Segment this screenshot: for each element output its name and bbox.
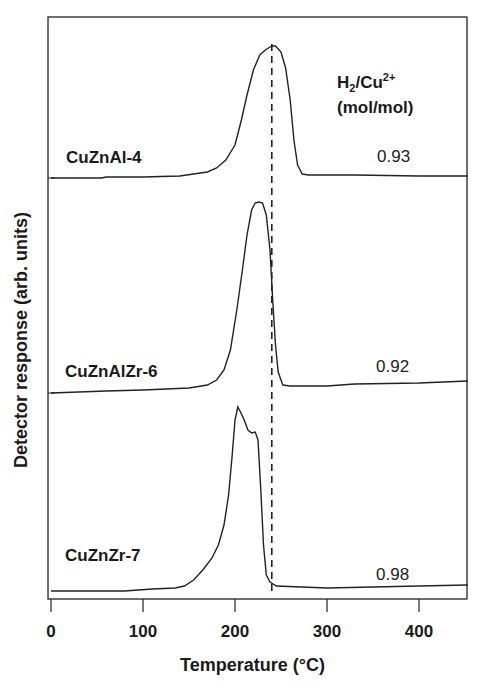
ratio-header-units: (mol/mol) xyxy=(337,98,414,118)
x-axis-title: Temperature (°C) xyxy=(0,655,485,676)
series-label-cuznal-4: CuZnAl-4 xyxy=(66,148,142,168)
series-label-cuznzr-7: CuZnZr-7 xyxy=(65,546,141,566)
ratio-header-sup: 2+ xyxy=(383,71,396,83)
x-tick-label: 200 xyxy=(221,622,249,642)
ratio-value-cuznalzr-6: 0.92 xyxy=(376,357,409,377)
ratio-value-cuznal-4: 0.93 xyxy=(377,147,410,167)
ratio-header-cu: /Cu xyxy=(355,73,382,92)
ratio-header: H2/Cu2+ (mol/mol) xyxy=(337,67,414,118)
series-label-cuznalzr-6: CuZnAlZr-6 xyxy=(65,362,158,382)
y-axis-ticks xyxy=(48,178,55,393)
x-tick-label: 0 xyxy=(46,622,55,642)
y-axis-title: Detector response (arb. units) xyxy=(11,212,32,468)
x-tick-label: 100 xyxy=(129,622,157,642)
ratio-header-h: H xyxy=(337,73,349,92)
ratio-value-cuznzr-7: 0.98 xyxy=(376,565,409,585)
x-tick-label: 300 xyxy=(313,622,341,642)
x-axis-ticks xyxy=(51,599,419,612)
x-tick-label: 400 xyxy=(405,622,433,642)
